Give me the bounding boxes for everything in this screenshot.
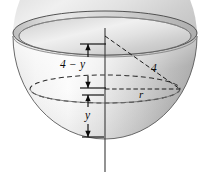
label-slant-radius: 4 — [151, 63, 157, 75]
label-four-minus-y: 4 − y — [60, 59, 85, 71]
label-cross-section-radius: r — [139, 89, 143, 100]
bowl-diagram-svg — [0, 0, 200, 180]
bowl-figure: 4 − y 4 r y — [0, 0, 200, 180]
label-depth-y: y — [85, 110, 90, 122]
